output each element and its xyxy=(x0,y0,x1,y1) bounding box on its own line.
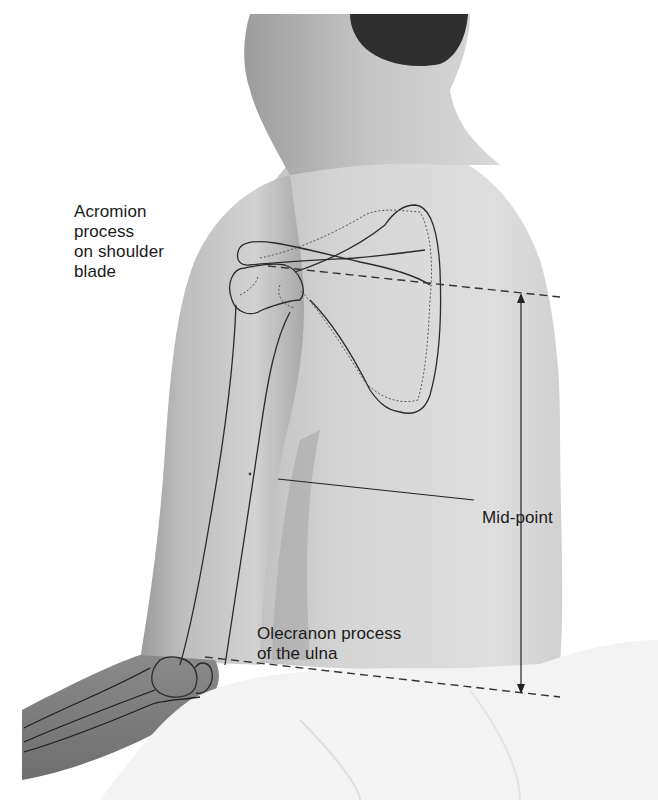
acromion-label-line-4: blade xyxy=(74,262,116,281)
acromion-label-line-2: process xyxy=(74,222,134,241)
acromion-label: Acromion process on shoulder blade xyxy=(74,202,164,282)
midpoint-label: Mid-point xyxy=(482,508,553,528)
olecranon-label: Olecranon process of the ulna xyxy=(257,624,401,664)
figure-artwork xyxy=(0,0,658,800)
acromion-label-line-3: on shoulder xyxy=(74,242,164,261)
acromion-label-line-1: Acromion xyxy=(74,202,147,221)
anatomy-figure: Acromion process on shoulder blade Mid-p… xyxy=(0,0,658,800)
olecranon-label-line-1: Olecranon process xyxy=(257,624,401,643)
olecranon-label-line-2: of the ulna xyxy=(257,644,338,663)
